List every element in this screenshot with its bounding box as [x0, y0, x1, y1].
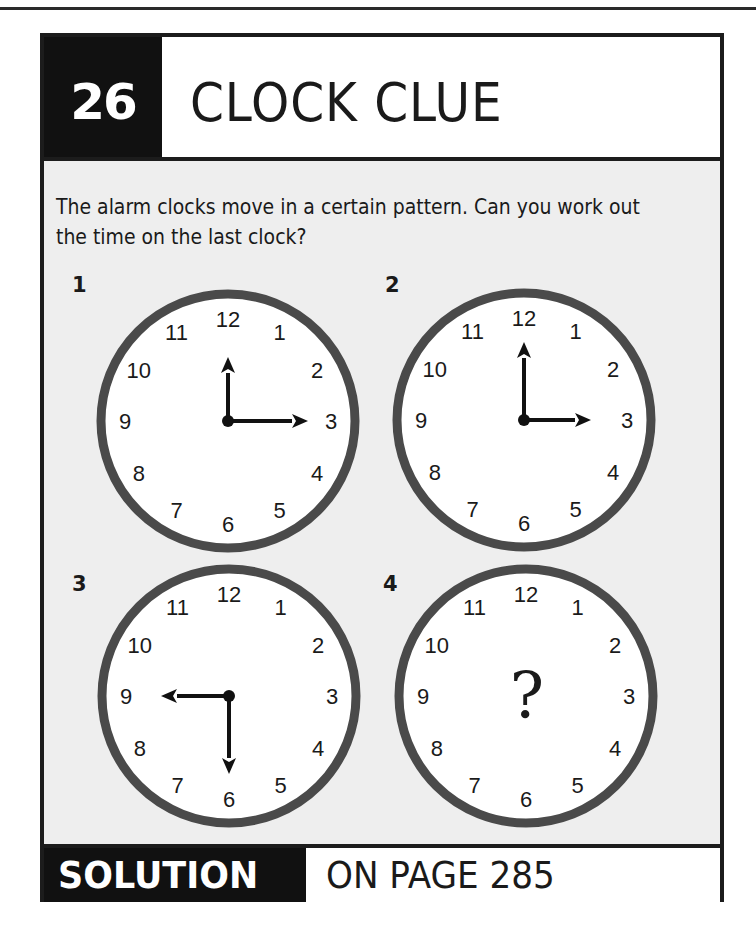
- dial-number-6: 6: [223, 787, 235, 812]
- dial-number-4: 4: [312, 736, 324, 761]
- dial-number-12: 12: [216, 307, 240, 332]
- clock-1-label: 1: [72, 273, 87, 297]
- puzzle-number: 26: [44, 37, 162, 157]
- dial-number-8: 8: [134, 736, 146, 761]
- clock-3-label: 3: [72, 572, 87, 596]
- puzzle-box: 26 CLOCK CLUE The alarm clocks move in a…: [40, 33, 724, 902]
- dial-number-12: 12: [514, 582, 538, 607]
- dial-number-5: 5: [571, 773, 583, 798]
- dial-number-11: 11: [461, 319, 484, 344]
- dial-number-8: 8: [429, 460, 441, 485]
- puzzle-prompt: The alarm clocks move in a certain patte…: [56, 192, 663, 252]
- dial-number-10: 10: [127, 358, 151, 383]
- dial-number-2: 2: [607, 357, 619, 382]
- dial-number-11: 11: [165, 320, 188, 345]
- dial-number-5: 5: [273, 498, 285, 523]
- dial-number-9: 9: [415, 408, 427, 433]
- clock-1: 121234567891011: [96, 289, 360, 553]
- dial-number-9: 9: [120, 684, 132, 709]
- dial-number-2: 2: [609, 633, 621, 658]
- dial-number-10: 10: [128, 633, 152, 658]
- dial-number-11: 11: [166, 595, 189, 620]
- dial-number-7: 7: [468, 773, 480, 798]
- dial-number-1: 1: [274, 595, 286, 620]
- puzzle-title: CLOCK CLUE: [190, 37, 503, 157]
- dial-number-4: 4: [607, 460, 619, 485]
- clock-2: 121234567891011: [392, 288, 656, 552]
- dial-number-5: 5: [569, 497, 581, 522]
- dial-number-4: 4: [609, 736, 621, 761]
- solution-label: SOLUTION: [44, 848, 306, 902]
- dial-number-7: 7: [466, 497, 478, 522]
- dial-number-3: 3: [621, 408, 633, 433]
- dial-number-6: 6: [222, 512, 234, 537]
- solution-page-ref: ON PAGE 285: [326, 848, 580, 902]
- dial-number-1: 1: [273, 320, 285, 345]
- dial-number-6: 6: [518, 511, 530, 536]
- dial-number-10: 10: [423, 357, 447, 382]
- dial-number-2: 2: [312, 633, 324, 658]
- dial-number-12: 12: [217, 582, 241, 607]
- clock-pivot: [223, 690, 235, 702]
- clock-3: 121234567891011: [97, 564, 361, 828]
- clock-4: 121234567891011?: [394, 564, 658, 828]
- dial-number-2: 2: [311, 358, 323, 383]
- dial-number-1: 1: [571, 595, 583, 620]
- dial-number-5: 5: [274, 773, 286, 798]
- dial-number-3: 3: [325, 409, 337, 434]
- top-rule: [0, 7, 756, 10]
- dial-number-10: 10: [425, 633, 449, 658]
- dial-number-12: 12: [512, 306, 536, 331]
- dial-number-3: 3: [326, 684, 338, 709]
- dial-number-8: 8: [133, 461, 145, 486]
- dial-number-7: 7: [170, 498, 182, 523]
- dial-number-7: 7: [171, 773, 183, 798]
- clock-pivot: [222, 415, 234, 427]
- puzzle-header: 26 CLOCK CLUE: [44, 37, 720, 161]
- dial-number-3: 3: [623, 684, 635, 709]
- solution-footer: SOLUTION ON PAGE 285: [44, 844, 720, 906]
- dial-number-4: 4: [311, 461, 323, 486]
- unknown-time-question-mark: ?: [510, 659, 544, 733]
- dial-number-11: 11: [463, 595, 486, 620]
- dial-number-9: 9: [417, 684, 429, 709]
- dial-number-6: 6: [520, 787, 532, 812]
- clock-pivot: [518, 414, 530, 426]
- dial-number-9: 9: [119, 409, 131, 434]
- dial-number-8: 8: [431, 736, 443, 761]
- dial-number-1: 1: [569, 319, 581, 344]
